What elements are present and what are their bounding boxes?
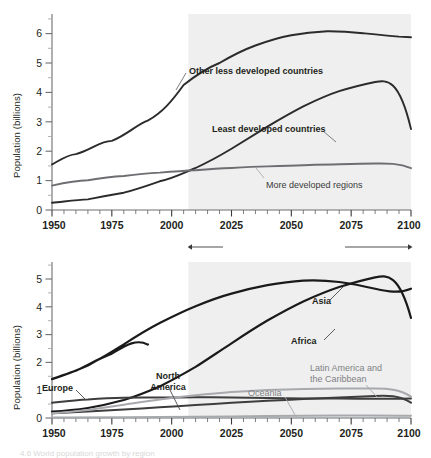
svg-text:1: 1	[36, 174, 42, 186]
svg-text:2075: 2075	[339, 219, 363, 231]
svg-text:0: 0	[36, 412, 42, 424]
svg-text:1950: 1950	[42, 427, 66, 439]
label-more-developed-regions: More developed regions	[266, 180, 363, 190]
label-asia: Asia	[312, 296, 331, 306]
svg-text:3: 3	[36, 116, 42, 128]
fertility-variant-annotation: based on medium fertility variant	[0, 238, 431, 256]
fertility-arrow-svg	[0, 238, 431, 256]
label-other-less-developed-countries: Other less developed countries	[189, 66, 323, 76]
y-axis-label-bottom: Population (billions)	[11, 325, 22, 410]
y-tick-labels-bottom: 0 1 2 3 4 5	[36, 273, 42, 424]
svg-text:2075: 2075	[339, 427, 363, 439]
svg-text:5: 5	[36, 273, 42, 285]
chart-top-svg: 0 1 2 3 4 5 6	[0, 0, 431, 236]
svg-text:1950: 1950	[42, 219, 66, 231]
chart-world-regions: 0 1 2 3 4 5	[0, 258, 431, 443]
y-ticks-top	[46, 34, 53, 210]
x-major-ticks-bottom	[52, 418, 411, 425]
chart-bottom-svg: 0 1 2 3 4 5	[0, 258, 431, 443]
svg-text:2000: 2000	[160, 427, 184, 439]
y-axis-label-top: Population (billions)	[11, 93, 22, 178]
svg-text:4: 4	[36, 301, 42, 313]
label-north-america-line1: North	[138, 371, 198, 381]
label-africa: Africa	[291, 336, 317, 346]
label-least-developed-countries: Least developed countries	[212, 124, 326, 134]
svg-text:2025: 2025	[220, 219, 244, 231]
leader-europe	[76, 390, 86, 400]
svg-text:2025: 2025	[220, 427, 244, 439]
chart-development-groups: 0 1 2 3 4 5 6	[0, 0, 431, 236]
svg-text:2: 2	[36, 145, 42, 157]
svg-text:2050: 2050	[280, 219, 304, 231]
svg-text:2: 2	[36, 356, 42, 368]
svg-text:0: 0	[36, 204, 42, 216]
figure-caption: 4.6 World population growth by region	[20, 449, 155, 458]
svg-text:2050: 2050	[280, 427, 304, 439]
svg-text:1975: 1975	[100, 427, 124, 439]
x-major-ticks-top	[52, 210, 411, 217]
label-latin-america-line1: Latin America and	[310, 363, 382, 373]
svg-text:3: 3	[36, 328, 42, 340]
population-growth-figure: 0 1 2 3 4 5 6	[0, 0, 431, 458]
svg-text:2000: 2000	[160, 219, 184, 231]
y-tick-labels-top: 0 1 2 3 4 5 6	[36, 27, 42, 215]
svg-text:6: 6	[36, 27, 42, 39]
label-europe: Europe	[42, 383, 73, 393]
svg-text:2100: 2100	[397, 219, 421, 231]
svg-text:5: 5	[36, 57, 42, 69]
label-north-america-line2: America	[138, 382, 198, 392]
x-tick-labels-bottom: 1950 1975 2000 2025 2050 2075 2100	[42, 427, 421, 439]
label-oceania: Oceania	[248, 388, 282, 398]
x-tick-labels-top: 1950 1975 2000 2025 2050 2075 2100	[42, 219, 421, 231]
svg-text:2100: 2100	[397, 427, 421, 439]
label-latin-america-line2: the Caribbean	[310, 374, 367, 384]
svg-text:1975: 1975	[100, 219, 124, 231]
svg-text:4: 4	[36, 86, 42, 98]
y-minor-ticks-top	[48, 19, 52, 195]
